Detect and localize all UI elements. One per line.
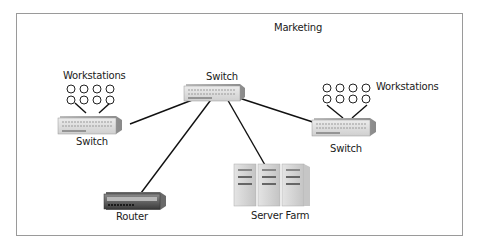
workstations-right-label: Workstations: [376, 81, 439, 92]
workstations-right-icons: [323, 84, 370, 103]
router-label: Router: [116, 211, 148, 222]
server-3: [282, 164, 310, 206]
marketing-label: Marketing: [274, 22, 322, 33]
link-right-ws-a: [327, 105, 343, 118]
link-right-ws-b: [352, 105, 367, 118]
switch-right-device: [312, 118, 376, 136]
link-center-server-farm: [226, 97, 265, 165]
link-left-ws-b: [99, 103, 110, 113]
switch-left-label: Switch: [76, 136, 108, 147]
switch-right-label: Switch: [330, 143, 362, 154]
workstations-left-label: Workstations: [63, 70, 126, 81]
connection-lines: [75, 97, 367, 193]
network-diagram: [0, 0, 484, 248]
router-device: [104, 192, 166, 210]
server-farm-device: [234, 164, 310, 206]
server-farm-label: Server Farm: [251, 210, 309, 221]
link-left-ws-a: [75, 103, 86, 113]
switch-left-device: [58, 116, 122, 134]
workstations-left-icons: [67, 85, 114, 104]
server-2: [258, 164, 280, 206]
switch-center-device: [184, 84, 245, 101]
server-1: [234, 164, 256, 206]
link-center-router: [141, 97, 213, 193]
link-center-right-switch: [236, 97, 322, 125]
switch-center-label: Switch: [206, 71, 238, 82]
